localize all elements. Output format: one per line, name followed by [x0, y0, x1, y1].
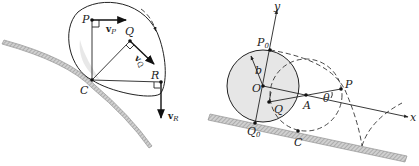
label-x-axis: x: [410, 111, 417, 124]
point-P: [90, 18, 94, 22]
point-O: [261, 84, 265, 88]
label-Q: Q: [274, 103, 283, 116]
point-C: [90, 78, 94, 82]
label-P0: P0: [256, 36, 269, 50]
label-y-axis: y: [273, 0, 281, 13]
label-P: P: [344, 78, 353, 91]
point-R: [159, 80, 163, 84]
point-Q: [267, 100, 271, 104]
left-figure: P Q R C vP vQ vR: [2, 2, 179, 148]
point-A: [304, 93, 308, 97]
label-O: O: [252, 82, 261, 95]
label-P: P: [81, 13, 90, 26]
point-P: [339, 87, 343, 91]
point-C: [296, 129, 300, 133]
label-vR: vR: [167, 111, 179, 123]
diagram-canvas: P Q R C vP vQ vR: [0, 0, 419, 166]
point-Q: [128, 39, 132, 43]
label-b: b: [255, 64, 262, 77]
label-Q: Q: [125, 25, 134, 38]
label-C: C: [80, 84, 89, 97]
label-C: C: [294, 136, 303, 149]
angle-theta-arc: [331, 92, 332, 98]
label-A: A: [302, 99, 311, 112]
right-figure: y x P0 b O Q A P θ Q0 C: [208, 0, 417, 162]
label-theta: θ: [323, 92, 330, 105]
trajectory-next: [362, 103, 402, 146]
label-R: R: [150, 69, 159, 82]
inclined-ground: [208, 114, 407, 162]
